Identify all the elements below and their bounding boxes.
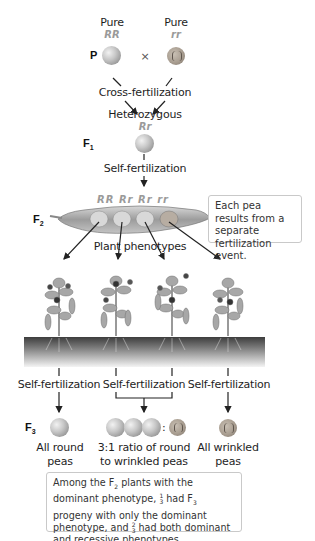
f3-round-pea-icon [50, 418, 69, 437]
cross-line-left [113, 78, 121, 86]
f3-outcome-3-line1: All wrinkled [197, 441, 258, 454]
f3-ratio-round-pea-icon [106, 418, 125, 437]
f3-ratio-wrinkled-pea-icon [169, 419, 186, 436]
f3-ratio-round-pea-icon [124, 418, 143, 437]
separate-fertilization-note: Each pea results from a separate fertili… [208, 195, 302, 243]
cross-symbol: × [140, 50, 149, 63]
f1-description: Heterozygous [108, 108, 181, 121]
generation-label-p: P [90, 49, 97, 61]
right-parent-purity: Pure [164, 16, 188, 29]
f1-round-pea-icon [135, 134, 154, 153]
round-pea-icon [102, 46, 121, 65]
soil-band [24, 337, 265, 367]
f3-outcome-1-line1: All round [36, 441, 83, 454]
generation-label-f3: F3 [25, 421, 36, 435]
plant-phenotypes-caption: Plant phenotypes [94, 240, 187, 253]
f3-outcome-3-line2: peas [215, 455, 240, 468]
plant23-self-fertilization-label: Self-fertilization [103, 378, 186, 391]
f1-self-fertilization-label: Self-fertilization [104, 162, 187, 175]
f3-wrinkled-pea-icon [219, 419, 237, 437]
cross-line-right [166, 78, 172, 86]
f1-genotype: Rr [139, 121, 152, 132]
right-parent-genotype: rr [171, 29, 181, 40]
f3-outcome-1-line2: peas [47, 455, 72, 468]
f2-genotypes: RR Rr Rr rr [97, 194, 169, 205]
generation-label-f1: F1 [83, 137, 94, 151]
cross-fertilization-label: Cross-fertilization [99, 86, 192, 99]
wrinkled-pea-icon [167, 47, 185, 65]
ratio-separator: : [162, 421, 166, 434]
left-parent-genotype: RR [104, 29, 119, 40]
f3-outcome-2-line1: 3:1 ratio of round [98, 441, 191, 454]
generation-label-f2: F2 [33, 213, 44, 227]
f3-ratio-round-pea-icon [142, 418, 161, 437]
f3-outcome-2-line2: to wrinkled peas [100, 455, 188, 468]
plant4-self-fertilization-label: Self-fertilization [188, 378, 271, 391]
plant1-self-fertilization-label: Self-fertilization [18, 378, 101, 391]
left-parent-purity: Pure [100, 16, 124, 29]
pea-pod [50, 206, 210, 233]
summary-note: Among the F2 plants with the dominant ph… [46, 472, 242, 532]
